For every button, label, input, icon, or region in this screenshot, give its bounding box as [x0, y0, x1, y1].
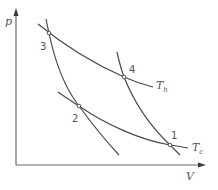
isotherm-hot — [38, 24, 153, 87]
y-axis-label: p — [5, 16, 12, 27]
isotherm-cold-label: Tc — [192, 142, 203, 153]
pv-diagram — [0, 0, 218, 190]
x-axis-label: V — [186, 171, 194, 182]
point-3-label: 3 — [40, 42, 46, 52]
point-2-label: 2 — [72, 114, 78, 124]
y-axis-arrow-icon — [14, 8, 19, 16]
axes — [14, 8, 207, 168]
point-3-marker — [47, 31, 51, 35]
x-axis-arrow-icon — [198, 163, 206, 168]
isotherm-hot-label: Th — [156, 80, 168, 91]
point-1-label: 1 — [171, 131, 177, 141]
point-2-marker — [77, 104, 81, 108]
adiabat-left — [46, 19, 119, 155]
isotherm-hot-label-sub: h — [163, 86, 168, 94]
point-1-marker — [168, 143, 172, 147]
point-4-marker — [122, 75, 126, 79]
point-4-label: 4 — [129, 65, 135, 75]
isotherm-cold-label-sub: c — [199, 148, 203, 156]
